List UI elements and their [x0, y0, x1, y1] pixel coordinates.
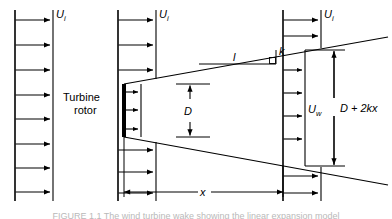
upstream-far-arrows	[16, 20, 51, 192]
wake-boundary-upper	[124, 37, 388, 84]
downstream-wake-arrows	[284, 70, 303, 139]
slope-annotation: l k	[199, 45, 285, 64]
rotor-diameter-label: D	[184, 105, 192, 117]
rotor-diameter-dimension: D	[176, 84, 210, 137]
turbine-rotor-label-line2: rotor	[74, 104, 97, 116]
figure-container: Ui Ui	[0, 0, 392, 219]
wake-length-label: l	[233, 51, 236, 63]
wake-diameter-label: D + 2kx	[340, 102, 378, 114]
turbine-rotor-label-line1: Turbine	[63, 91, 100, 103]
upstream-far-profile: Ui	[15, 8, 66, 201]
downstream-velocity-label: Ui	[324, 8, 334, 23]
downstream-distance-dimension: x	[124, 137, 283, 199]
rotor-plane-profile: Ui Turbine rotor	[63, 8, 169, 201]
wake-diagram: Ui Ui	[0, 0, 392, 219]
upstream-far-velocity-label: Ui	[56, 8, 66, 23]
downstream-distance-label: x	[199, 186, 206, 198]
decay-constant-label: k	[279, 45, 285, 57]
downstream-profile: Ui Uw	[283, 8, 334, 201]
figure-caption: FIGURE 1.1 The wind turbine wake showing…	[0, 211, 392, 219]
rotor-plane-velocity-label: Ui	[159, 8, 169, 23]
wake-boundary-lower	[124, 137, 388, 185]
wake-velocity-label: Uw	[308, 103, 322, 118]
rotor-plane-wake-arrows	[126, 92, 138, 129]
